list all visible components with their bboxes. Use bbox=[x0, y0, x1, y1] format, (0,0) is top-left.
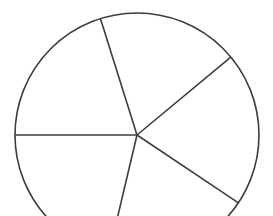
circle-sector-diagram bbox=[0, 0, 273, 216]
sector-5 bbox=[15, 135, 137, 216]
figure-canvas bbox=[0, 0, 273, 216]
sector-group bbox=[15, 13, 259, 216]
